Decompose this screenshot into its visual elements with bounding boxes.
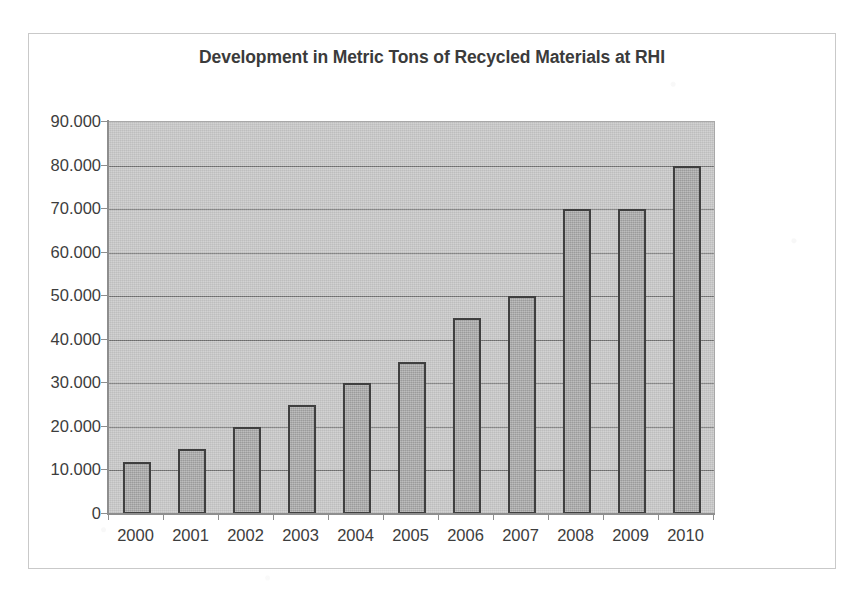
x-axis-tick-mark [163,513,164,520]
y-axis-tick-label: 50.000 [35,286,107,305]
x-axis-tick-label: 2006 [447,526,484,545]
chart-title: Development in Metric Tons of Recycled M… [29,47,835,68]
x-axis-tick-label: 2004 [337,526,374,545]
x-axis-tick-mark [493,513,494,520]
x-axis-tick-mark [438,513,439,520]
y-axis-tick-label: 0 [35,504,107,523]
x-axis-tick-label: 2003 [282,526,319,545]
y-axis-tick-label: 80.000 [35,155,107,174]
y-axis-tick-label: 40.000 [35,329,107,348]
bar [123,462,151,514]
y-axis-tick-mark [101,165,108,166]
x-axis-tick-mark [658,513,659,520]
plot-area [108,121,715,515]
y-axis-tick-mark [101,252,108,253]
bar [508,296,536,514]
x-axis-tick-label: 2007 [502,526,539,545]
bar [398,362,426,514]
x-axis-tick-mark [383,513,384,520]
x-axis-tick-label: 2005 [392,526,429,545]
y-axis-tick-mark [101,121,108,122]
y-axis-tick-mark [101,469,108,470]
bar [178,449,206,514]
y-axis-tick-mark [101,513,108,514]
y-axis-tick-label: 70.000 [35,199,107,218]
x-axis-tick-label: 2001 [172,526,209,545]
y-axis-tick-label: 30.000 [35,373,107,392]
bar [673,166,701,514]
gridline [109,166,714,167]
y-axis-line [107,120,109,515]
x-axis-tick-mark [548,513,549,520]
y-axis-tick-mark [101,339,108,340]
bar [233,427,261,514]
y-axis-tick-label: 10.000 [35,460,107,479]
y-axis-tick-mark [101,295,108,296]
chart-frame: Development in Metric Tons of Recycled M… [28,33,836,569]
bar [563,209,591,514]
y-axis-tick-mark [101,382,108,383]
x-axis-tick-mark [273,513,274,520]
x-axis-tick-mark [108,513,109,520]
x-axis-tick-label: 2010 [667,526,704,545]
bar [453,318,481,514]
y-axis-tick-mark [101,426,108,427]
y-axis-tick-mark [101,208,108,209]
bar [288,405,316,514]
x-axis-line [107,513,715,515]
x-axis-tick-label: 2009 [612,526,649,545]
x-axis-tick-mark [328,513,329,520]
y-axis-tick-label: 90.000 [35,112,107,131]
x-axis-tick-label: 2000 [117,526,154,545]
x-axis-tick-label: 2008 [557,526,594,545]
bar [618,209,646,514]
bar [343,383,371,514]
y-axis-tick-label: 60.000 [35,242,107,261]
y-axis-tick-label: 20.000 [35,416,107,435]
x-axis-tick-mark [218,513,219,520]
x-axis-tick-mark [603,513,604,520]
x-axis-tick-mark [713,513,714,520]
x-axis-tick-label: 2002 [227,526,264,545]
y-axis-tick-labels: 010.00020.00030.00040.00050.00060.00070.… [29,34,107,568]
